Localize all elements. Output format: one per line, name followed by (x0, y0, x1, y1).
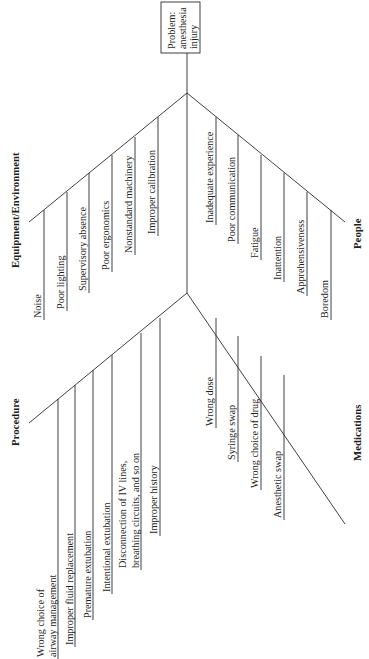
problem-line-1: Problem: (166, 12, 177, 49)
cause-nonstandard-machinery: Nonstandard machinery (123, 154, 134, 253)
cause-improper-history: Improper history (148, 464, 159, 534)
cause-wrong-choice-airway-line1: Wrong choice of (35, 588, 46, 657)
cause-poor-communication: Poor communication (226, 157, 237, 242)
cause-disconnection-line1: Disconnection of IV lines, (117, 461, 128, 568)
cause-disconnection-line2: breathing circuits, and so on (130, 453, 141, 568)
cause-inadequate-experience: Inadequate experience (204, 131, 215, 223)
category-equipment-label: Equipment/Environment (9, 152, 21, 268)
category-medications-label: Medications (351, 405, 363, 461)
problem-box: Problem: anesthesia injury (161, 2, 200, 53)
medication-causes: Wrong dose Syringe swap Wrong choice of … (204, 318, 284, 520)
cause-poor-ergonomics: Poor ergonomics (100, 201, 111, 270)
equipment-causes: Noise Poor lighting Supervisory absence … (32, 117, 158, 320)
procedure-causes: Wrong choice of airway management Improp… (35, 318, 160, 659)
cause-premature-extubation: Premature extubation (82, 531, 93, 618)
cause-wrong-choice-airway-line2: airway management (47, 575, 58, 657)
problem-line-2: anesthesia (177, 7, 188, 49)
category-procedure-label: Procedure (9, 398, 21, 446)
cause-wrong-dose: Wrong dose (204, 376, 215, 426)
cause-poor-lighting: Poor lighting (55, 256, 66, 310)
category-people-label: People (351, 218, 363, 249)
cause-improper-calibration: Improper calibration (146, 150, 157, 234)
people-causes: Inadequate experience Poor communication… (204, 117, 331, 320)
cause-boredom: Boredom (319, 280, 330, 318)
cause-improper-fluid: Improper fluid replacement (64, 533, 75, 645)
cause-apprehensiveness: Apprehensiveness (295, 220, 306, 294)
cause-inattention: Inattention (272, 236, 283, 280)
cause-anesthetic-swap: Anesthetic swap (272, 451, 283, 518)
problem-line-3: injury (188, 24, 199, 49)
fishbone-diagram: Problem: anesthesia injury Equipment/Env… (0, 0, 369, 659)
cause-wrong-choice-drug: Wrong choice of drug (249, 399, 260, 488)
branch-procedure (29, 293, 187, 423)
cause-fatigue: Fatigue (249, 227, 260, 258)
cause-syringe-swap: Syringe swap (226, 405, 237, 460)
cause-noise: Noise (32, 294, 43, 318)
cause-supervisory-absence: Supervisory absence (77, 206, 88, 291)
cause-intentional-extubation: Intentional extubation (101, 502, 112, 592)
